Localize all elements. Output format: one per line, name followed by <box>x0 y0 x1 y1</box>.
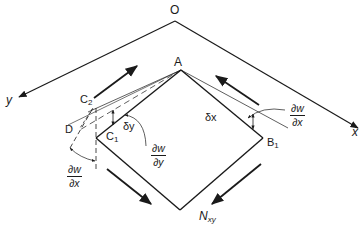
y-axis <box>19 21 175 97</box>
x-axis-label: x <box>352 126 358 138</box>
point-c1-label: C1 <box>106 131 118 144</box>
angle-arc-dwdx-left <box>70 148 95 161</box>
slope-dwdy-num: ∂w <box>151 143 166 156</box>
y-axis-label: y <box>6 94 12 106</box>
slope-dwdx-right: ∂w ∂x <box>290 103 305 127</box>
slope-dwdy: ∂w ∂y <box>151 143 166 167</box>
element-edge-c1-n <box>96 138 180 210</box>
slope-dwdx-right-num: ∂w <box>290 103 305 116</box>
plate-twist-diagram <box>0 0 363 230</box>
point-b1-sub: 1 <box>274 141 278 150</box>
twisted-edge-a-b2 <box>181 70 288 128</box>
point-o-label: O <box>170 4 179 16</box>
slope-dwdy-den: ∂y <box>153 156 163 168</box>
shear-arrow-lower-right <box>212 164 261 204</box>
shear-force-label: Nxy <box>199 210 216 224</box>
d-dashed-line <box>70 108 93 148</box>
delta-y-label: δy <box>123 121 135 132</box>
delta-x-label: δx <box>205 112 217 123</box>
shear-arrow-upper-left <box>94 66 137 98</box>
element-edge-b1-n <box>180 138 263 210</box>
point-b1-label: B1 <box>267 137 279 150</box>
point-c1-letter: C <box>106 130 114 142</box>
point-c2-label: C2 <box>80 94 92 107</box>
shear-arrow-lower-left <box>107 169 151 204</box>
element-edge-a-c1 <box>96 70 181 138</box>
slope-dwdx-left-den: ∂x <box>69 177 79 189</box>
slope-dwdx-right-den: ∂x <box>292 116 302 128</box>
point-c1-sub: 1 <box>114 135 118 144</box>
shear-force-sub: xy <box>208 215 216 224</box>
point-a-label: A <box>174 56 182 68</box>
slope-dwdx-left-num: ∂w <box>67 164 82 177</box>
point-c2-sub: 2 <box>88 98 92 107</box>
x-axis <box>175 21 358 128</box>
shear-force-letter: N <box>199 209 208 223</box>
slope-dwdx-left: ∂w ∂x <box>67 164 82 188</box>
point-c2-letter: C <box>80 93 88 105</box>
point-d-label: D <box>65 124 73 135</box>
